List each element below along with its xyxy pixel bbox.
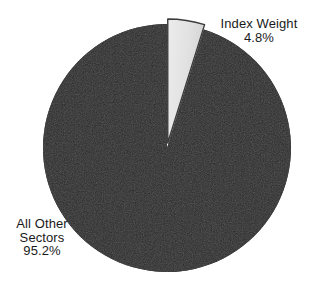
- slice-label-index-weight-name: Index Weight: [211, 17, 307, 31]
- slice-label-all-other-sectors-percent: 95.2%: [2, 244, 82, 258]
- slice-label-index-weight: Index Weight 4.8%: [211, 17, 307, 44]
- slice-label-all-other-sectors: All Other Sectors 95.2%: [2, 217, 82, 258]
- slice-label-index-weight-percent: 4.8%: [211, 31, 307, 45]
- slice-label-all-other-sectors-line2: Sectors: [2, 231, 82, 245]
- slice-label-all-other-sectors-line1: All Other: [2, 217, 82, 231]
- pie-chart: Index Weight 4.8% All Other Sectors 95.2…: [0, 0, 310, 284]
